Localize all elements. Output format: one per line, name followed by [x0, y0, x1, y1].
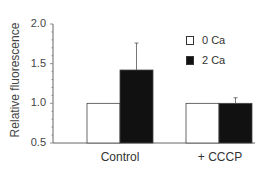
- y-tick-label: 1.0: [22, 96, 46, 108]
- y-axis-label: Relative fluorescence: [8, 15, 22, 145]
- legend-item-0-ca: 0 Ca: [186, 34, 225, 46]
- y-tick-label: 1.5: [22, 57, 46, 69]
- bar-2-ca: [219, 103, 252, 143]
- bar-0-ca: [186, 103, 219, 143]
- x-category-label: Control: [90, 150, 150, 164]
- legend-swatch-black: [186, 56, 194, 65]
- legend-item-2-ca: 2 Ca: [186, 54, 225, 66]
- bar-chart: 2.0 1.5 1.0 0.5 Relative fluorescence Co…: [0, 0, 264, 173]
- y-tick-label: 2.0: [22, 17, 46, 29]
- y-tick-label: 0.5: [22, 136, 46, 148]
- legend-label: 0 Ca: [202, 34, 225, 46]
- bar-0-ca: [87, 103, 120, 143]
- legend-swatch-white: [186, 36, 194, 45]
- legend-label: 2 Ca: [202, 54, 225, 66]
- x-category-label: + CCCP: [190, 150, 250, 164]
- bar-2-ca: [120, 70, 153, 143]
